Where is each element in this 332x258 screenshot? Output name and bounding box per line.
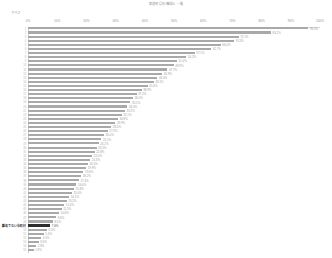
bar[interactable] bbox=[28, 155, 92, 157]
bar-row[interactable]: 372.1% bbox=[28, 35, 320, 38]
bar-row[interactable]: 3222.0% bbox=[28, 154, 320, 157]
bar-row[interactable]: 2133.2% bbox=[28, 109, 320, 112]
bar-row[interactable]: 3519.9% bbox=[28, 167, 320, 170]
bar-row[interactable]: 3420.5% bbox=[28, 163, 320, 166]
bar-row[interactable]: 2924.2% bbox=[28, 142, 320, 145]
bar-row[interactable]: 1737.2% bbox=[28, 93, 320, 96]
bar[interactable] bbox=[28, 48, 211, 50]
bar-row[interactable]: 515.4% bbox=[28, 232, 320, 235]
bar-row[interactable]: 4214.1% bbox=[28, 195, 320, 198]
bar-row[interactable]: 2825.1% bbox=[28, 138, 320, 141]
bar[interactable] bbox=[28, 134, 104, 136]
bar-row[interactable]: 3817.4% bbox=[28, 179, 320, 182]
bar-row[interactable]: 1541.0% bbox=[28, 85, 320, 88]
bar-row[interactable]: 951.0% bbox=[28, 60, 320, 63]
bar-row[interactable]: 1049.9% bbox=[28, 64, 320, 67]
bar[interactable] bbox=[28, 68, 167, 70]
bar-row[interactable]: 1147.7% bbox=[28, 68, 320, 71]
bar-row[interactable]: 566.0% bbox=[28, 43, 320, 46]
bar[interactable] bbox=[28, 77, 157, 79]
bar[interactable] bbox=[28, 114, 122, 116]
bar-row[interactable]: 524.5% bbox=[28, 237, 320, 240]
bar[interactable] bbox=[28, 192, 72, 194]
bar[interactable] bbox=[28, 233, 44, 235]
bar[interactable] bbox=[28, 40, 234, 42]
bar-row[interactable]: 2034.0% bbox=[28, 105, 320, 108]
bar-row[interactable]: 2330.8% bbox=[28, 117, 320, 120]
bar[interactable] bbox=[28, 56, 186, 58]
bar-row[interactable]: 1443.1% bbox=[28, 80, 320, 83]
bar[interactable] bbox=[28, 171, 83, 173]
bar[interactable] bbox=[28, 64, 174, 66]
bar[interactable] bbox=[28, 196, 69, 198]
bar[interactable] bbox=[28, 204, 64, 206]
bar[interactable] bbox=[28, 73, 162, 75]
bar[interactable] bbox=[28, 110, 125, 112]
bar[interactable] bbox=[28, 105, 127, 107]
bar-row[interactable]: 1836.0% bbox=[28, 97, 320, 100]
bar[interactable] bbox=[28, 126, 111, 128]
bar[interactable] bbox=[28, 179, 79, 181]
bar[interactable] bbox=[28, 44, 221, 46]
bar[interactable] bbox=[28, 130, 108, 132]
bar-row[interactable]: 3023.5% bbox=[28, 146, 320, 149]
bar-row[interactable]: 2232.1% bbox=[28, 113, 320, 116]
bar-row[interactable]: 1638.9% bbox=[28, 89, 320, 92]
bar-row[interactable]: 4313.2% bbox=[28, 200, 320, 203]
bar[interactable] bbox=[28, 245, 36, 247]
bar[interactable] bbox=[28, 81, 154, 83]
bar[interactable] bbox=[28, 220, 53, 222]
bar[interactable] bbox=[28, 229, 47, 231]
bar-row[interactable]: 4412.4% bbox=[28, 204, 320, 207]
bar[interactable] bbox=[28, 188, 74, 190]
bar-row[interactable]: 196.0% bbox=[28, 27, 320, 30]
bar[interactable] bbox=[28, 200, 67, 202]
bar-row[interactable]: 3321.3% bbox=[28, 158, 320, 161]
bar-row[interactable]: 551.9% bbox=[28, 249, 320, 252]
bar[interactable] bbox=[28, 138, 101, 140]
bar-row[interactable]: 662.7% bbox=[28, 48, 320, 51]
bar[interactable] bbox=[28, 101, 130, 103]
bar-row[interactable]: 479.6% bbox=[28, 216, 320, 219]
bar[interactable] bbox=[28, 151, 95, 153]
bar[interactable] bbox=[28, 85, 148, 87]
bar-row[interactable]: 533.6% bbox=[28, 241, 320, 244]
bar[interactable] bbox=[28, 142, 99, 144]
bar-row[interactable]: 1245.9% bbox=[28, 72, 320, 75]
bar[interactable] bbox=[28, 89, 142, 91]
bar[interactable] bbox=[28, 208, 62, 210]
bar-row[interactable]: 1344.3% bbox=[28, 76, 320, 79]
bar-row[interactable]: 506.5% bbox=[28, 228, 320, 231]
bar-row[interactable]: 3916.6% bbox=[28, 183, 320, 186]
bar[interactable] bbox=[28, 93, 137, 95]
bar[interactable] bbox=[28, 27, 308, 29]
bar[interactable] bbox=[28, 159, 90, 161]
bar-row[interactable]: 488.5% bbox=[28, 220, 320, 223]
bar[interactable] bbox=[28, 241, 39, 243]
bar-row[interactable]: 3718.2% bbox=[28, 175, 320, 178]
bar[interactable] bbox=[28, 237, 41, 239]
bar-row[interactable]: 542.8% bbox=[28, 245, 320, 248]
bar-row[interactable]: 3619.0% bbox=[28, 171, 320, 174]
bar[interactable] bbox=[28, 118, 118, 120]
bar[interactable] bbox=[28, 216, 56, 218]
bar-row[interactable]: 854.2% bbox=[28, 56, 320, 59]
bar-row[interactable]: 離島でない市町村7.6% bbox=[28, 224, 320, 227]
bar-row[interactable]: 2528.5% bbox=[28, 126, 320, 129]
bar-row[interactable]: 3122.8% bbox=[28, 150, 320, 153]
bar-row[interactable]: 757.1% bbox=[28, 52, 320, 55]
bar[interactable] bbox=[28, 175, 81, 177]
bar[interactable] bbox=[28, 97, 133, 99]
bar-row[interactable]: 2429.9% bbox=[28, 122, 320, 125]
bar-row[interactable]: 4610.6% bbox=[28, 212, 320, 215]
bar[interactable] bbox=[28, 167, 86, 169]
bar[interactable] bbox=[28, 212, 59, 214]
bar-row[interactable]: 1935.1% bbox=[28, 101, 320, 104]
bar[interactable] bbox=[28, 163, 88, 165]
bar[interactable] bbox=[28, 31, 271, 33]
bar-row[interactable]: 4015.8% bbox=[28, 187, 320, 190]
bar[interactable] bbox=[28, 60, 177, 62]
bar-row[interactable]: 470.5% bbox=[28, 39, 320, 42]
bar[interactable] bbox=[28, 36, 239, 38]
bar-row[interactable]: 283.2% bbox=[28, 31, 320, 34]
